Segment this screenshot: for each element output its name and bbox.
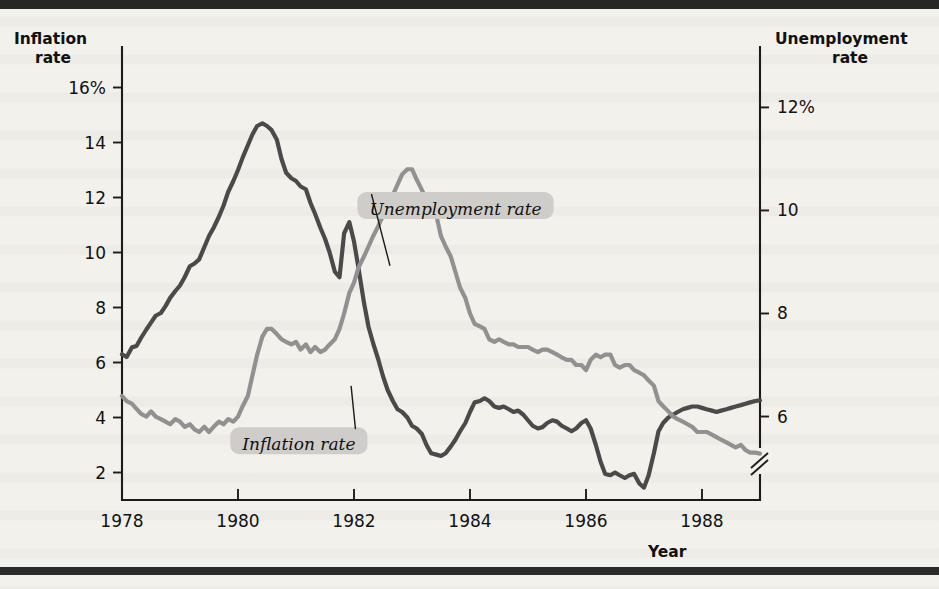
axis-frame xyxy=(122,46,760,500)
left-axis-tick-label: 2 xyxy=(95,463,106,483)
right-axis-tick-label: 8 xyxy=(777,303,788,323)
figure-container: Inflation rate Unemployment rate Year 24… xyxy=(0,0,939,589)
right-axis-title-line1: Unemployment xyxy=(775,30,908,48)
chart-geometry: 246810121416%681012%19781980198219841986… xyxy=(68,46,815,531)
left-axis-title-line1: Inflation xyxy=(14,30,87,48)
left-axis-tick-label: 12 xyxy=(84,188,106,208)
left-axis-tick-label: 16% xyxy=(68,78,106,98)
x-axis-tick-label: 1980 xyxy=(216,511,259,531)
x-axis-tick-label: 1988 xyxy=(680,511,723,531)
right-axis-tick-label: 10 xyxy=(777,200,799,220)
left-axis-tick-label: 8 xyxy=(95,298,106,318)
series-annotation-label: Unemployment rate xyxy=(369,199,541,219)
x-axis-tick-label: 1986 xyxy=(564,511,607,531)
left-axis-tick-label: 6 xyxy=(95,353,106,373)
left-axis-tick-label: 4 xyxy=(95,408,106,428)
x-axis-tick-label: 1982 xyxy=(332,511,375,531)
right-axis-tick-label: 6 xyxy=(777,407,788,427)
x-axis-tick-label: 1984 xyxy=(448,511,491,531)
right-axis-tick-label: 12% xyxy=(777,97,815,117)
series-annotation-leader xyxy=(351,386,355,429)
left-axis-tick-label: 10 xyxy=(84,243,106,263)
left-axis-tick-label: 14 xyxy=(84,133,106,153)
right-axis-title-line2: rate xyxy=(832,49,868,67)
left-axis-title-line2: rate xyxy=(35,49,71,67)
x-axis-tick-label: 1978 xyxy=(100,511,143,531)
series-annotation-label: Inflation rate xyxy=(241,434,355,454)
series-line-inflation-rate xyxy=(122,123,760,487)
x-axis-title: Year xyxy=(647,543,687,561)
chart-svg: Inflation rate Unemployment rate Year 24… xyxy=(0,0,939,589)
